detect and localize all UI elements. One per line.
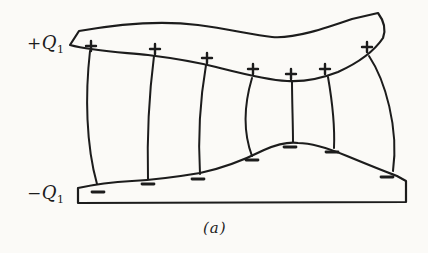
field-line-2 (148, 56, 154, 179)
plus-sign: + (27, 33, 42, 53)
figure-canvas: +Q1 −Q1 (a) (0, 0, 428, 253)
charge-subscript: 1 (57, 43, 65, 56)
field-line-3 (199, 65, 206, 174)
charge-symbol: Q (42, 182, 57, 203)
field-line-4 (246, 78, 252, 156)
bottom-conductor-outline (78, 143, 406, 203)
charge-subscript: 1 (57, 193, 65, 206)
minus-sign: − (27, 183, 42, 203)
top-conductor-outline (70, 13, 384, 81)
figure-caption: (a) (203, 219, 227, 237)
field-line-6 (328, 77, 334, 148)
charge-symbol: Q (42, 32, 57, 53)
top-charge-label: +Q1 (27, 32, 65, 53)
field-line-5 (292, 81, 293, 142)
field-line-1 (87, 51, 97, 184)
field-line-7 (369, 56, 394, 171)
bottom-charge-label: −Q1 (27, 182, 65, 203)
